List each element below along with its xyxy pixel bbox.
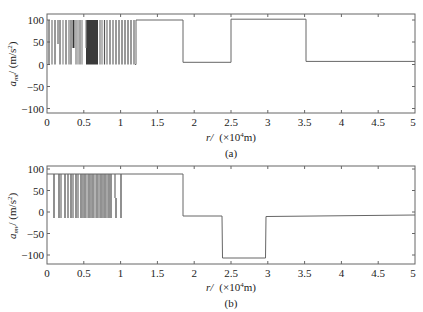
x-axis-label-a: r/(×104m) [206,131,256,144]
y-axis-label-a: amt/ (m/s2) [6,41,20,86]
svg-text:4: 4 [339,116,345,128]
svg-text:2.5: 2.5 [224,116,238,128]
series-a-dense [49,20,134,65]
x-ticks-b [84,166,378,264]
svg-text:0: 0 [39,206,45,218]
svg-text:100: 100 [28,14,45,26]
caption-b: (b) [225,297,238,310]
svg-text:5: 5 [410,267,416,279]
y-axis-label-b: amv/ (m/s2) [6,193,20,240]
svg-text:amt/ (m/s2): amt/ (m/s2) [6,41,20,86]
svg-text:−100: −100 [21,249,44,261]
x-tick-labels-a: 0 0.5 1 1.5 2 2.5 3 3.5 4 4.5 5 [44,116,416,128]
svg-text:amv/ (m/s2): amv/ (m/s2) [6,193,20,240]
svg-text:3.5: 3.5 [298,267,312,279]
svg-text:3: 3 [265,267,271,279]
svg-text:4.5: 4.5 [371,116,385,128]
x-axis-label-b: r/(×104m) [206,281,256,294]
svg-text:3.5: 3.5 [298,116,312,128]
svg-text:5: 5 [410,116,416,128]
y-tick-labels-a: 100 50 0 −50 −100 [21,14,44,115]
svg-text:1: 1 [118,116,124,128]
svg-text:2: 2 [191,267,197,279]
panel-b: 100 50 0 −50 −100 0 0.5 1 1.5 2 2.5 3 3.… [21,163,416,279]
plot-frame-b [47,166,415,264]
panel-a: 100 50 0 −50 −100 0 0.5 1 1.5 2 2.5 3 3. [21,14,416,128]
svg-text:1.5: 1.5 [151,116,165,128]
svg-text:0: 0 [44,116,50,128]
svg-text:4.5: 4.5 [371,267,385,279]
series-a-steps [135,19,415,64]
svg-text:0.5: 0.5 [77,116,91,128]
caption-a: (a) [225,147,238,160]
x-tick-labels-b: 0 0.5 1 1.5 2 2.5 3 3.5 4 4.5 5 [44,267,416,279]
svg-text:−50: −50 [27,228,45,240]
svg-text:1: 1 [118,267,124,279]
svg-text:−50: −50 [27,81,45,93]
svg-text:0.5: 0.5 [77,267,91,279]
svg-text:0: 0 [39,59,45,71]
y-ticks-b [47,169,415,255]
svg-text:100: 100 [28,163,45,175]
svg-text:3: 3 [265,116,271,128]
svg-text:0: 0 [44,267,50,279]
svg-text:50: 50 [33,36,45,48]
y-tick-labels-b: 100 50 0 −50 −100 [21,163,44,261]
series-b-steps [47,174,415,258]
svg-text:2: 2 [191,116,197,128]
svg-text:50: 50 [33,185,45,197]
svg-text:−100: −100 [21,103,44,115]
figure: 100 50 0 −50 −100 0 0.5 1 1.5 2 2.5 3 3. [0,0,423,312]
svg-text:2.5: 2.5 [224,267,238,279]
svg-text:4: 4 [339,267,345,279]
svg-text:1.5: 1.5 [151,267,165,279]
series-b-dense [54,174,121,218]
